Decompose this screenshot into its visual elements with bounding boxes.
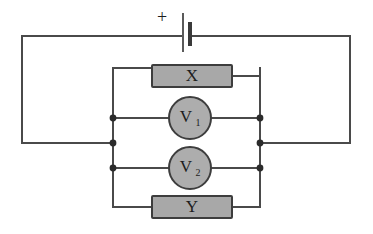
voltmeter-v1-subscript: 1 — [196, 117, 201, 128]
junction-left-upper-dot — [110, 115, 117, 122]
junction-right-upper-dot — [257, 115, 264, 122]
junction-left-mid-dot — [110, 140, 117, 147]
resistor-y-label: Y — [186, 197, 198, 216]
circuit-svg: + X V 1 V 2 Y — [0, 0, 373, 234]
voltmeter-v1-letter: V — [180, 107, 193, 126]
resistor-x-label: X — [186, 66, 198, 85]
circuit-diagram-canvas: + X V 1 V 2 Y — [0, 0, 373, 234]
voltmeter-v2-subscript: 2 — [196, 167, 201, 178]
junction-right-lower-dot — [257, 165, 264, 172]
junction-right-mid-dot — [257, 140, 264, 147]
battery-polarity-label: + — [157, 7, 167, 27]
junction-left-lower-dot — [110, 165, 117, 172]
voltmeter-v2-letter: V — [180, 157, 193, 176]
